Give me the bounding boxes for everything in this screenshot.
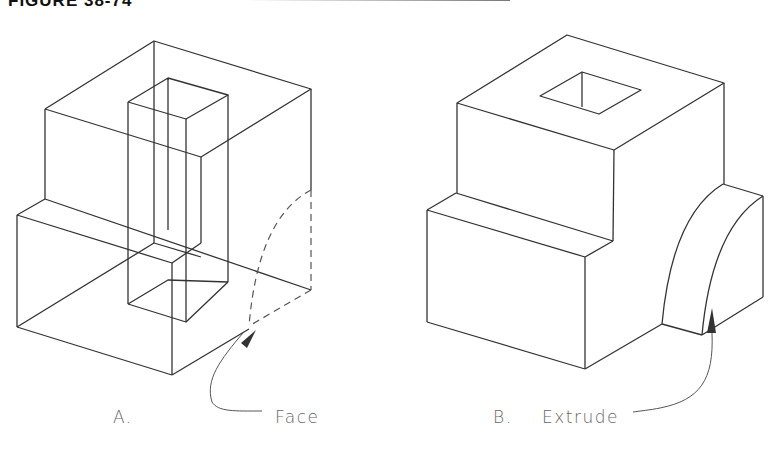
- view-a-leader: [210, 330, 262, 411]
- view-a-face-profile: [249, 190, 311, 326]
- view-b-callout-extrude: Extrude: [542, 407, 619, 427]
- view-a-callout-face: Face: [275, 407, 319, 427]
- view-a-wireframe: [17, 41, 311, 375]
- view-a-caption: A.: [113, 407, 133, 427]
- arrowhead-icon: [707, 308, 716, 333]
- view-b-caption: B.: [493, 407, 513, 427]
- technical-drawing: [0, 0, 777, 452]
